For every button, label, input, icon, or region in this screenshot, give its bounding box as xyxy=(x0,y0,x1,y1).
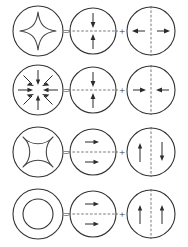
arrow-vertical-inward-bottom xyxy=(91,34,96,49)
diagram-canvas: = + xyxy=(0,0,188,247)
concave-square-shape xyxy=(23,137,53,167)
arrow-shear-left-up xyxy=(138,143,142,162)
row-2-term-2 xyxy=(127,65,175,115)
operator-plus: + xyxy=(119,146,125,158)
row-2: = + xyxy=(13,65,175,115)
row-1-result xyxy=(13,6,63,56)
arrow-shear-left-up xyxy=(138,205,142,224)
arrow-horizontal-inward-left xyxy=(133,88,146,93)
arrow-shear-bottom-right xyxy=(85,160,99,164)
operator-plus: + xyxy=(119,208,125,220)
radial-arrow-sw xyxy=(24,94,35,105)
inner-circle xyxy=(23,199,53,229)
arrow-shear-right-down xyxy=(160,142,164,161)
row-1: = + xyxy=(13,6,175,56)
radial-arrow-w xyxy=(18,88,33,92)
arrow-shear-top-right xyxy=(85,140,99,144)
radial-arrow-se xyxy=(42,94,53,105)
arrow-horizontal-inward-right xyxy=(156,88,169,93)
arrow-shear-top-right xyxy=(85,202,99,206)
radial-arrow-ne xyxy=(42,76,53,87)
operator-plus: + xyxy=(119,25,125,37)
row-4-term-2 xyxy=(127,189,175,239)
row-1-term-1 xyxy=(68,8,118,54)
row-3-result xyxy=(13,127,63,177)
outer-circle xyxy=(13,189,63,239)
radial-arrow-nw xyxy=(24,76,35,87)
radial-arrow-e xyxy=(43,88,58,92)
row-4-result xyxy=(13,189,63,239)
row-3-term-1 xyxy=(68,129,118,175)
row-3-term-2 xyxy=(127,127,175,177)
arrow-vertical-inward-top xyxy=(91,72,96,87)
arrow-vertical-inward-bottom xyxy=(91,93,96,108)
four-pointed-star-shape xyxy=(20,12,56,50)
row-2-term-1 xyxy=(68,67,118,113)
arrow-shear-right-up xyxy=(160,205,164,224)
row-3: = + xyxy=(13,127,175,177)
arrow-vertical-inward-top xyxy=(91,13,96,28)
arrow-horizontal-outward-left xyxy=(132,29,145,34)
outer-circle xyxy=(13,127,63,177)
row-4: = + xyxy=(13,189,175,239)
operator-plus: + xyxy=(119,84,125,96)
radial-arrow-n xyxy=(36,70,40,85)
radial-arrow-s xyxy=(36,95,40,110)
row-2-result xyxy=(13,65,63,115)
deformation-decomposition-figure: = + xyxy=(0,0,188,247)
row-1-term-2 xyxy=(127,6,175,56)
arrow-shear-bottom-right xyxy=(85,222,99,226)
row-4-term-1 xyxy=(68,191,118,237)
arrow-horizontal-outward-right xyxy=(157,29,170,34)
